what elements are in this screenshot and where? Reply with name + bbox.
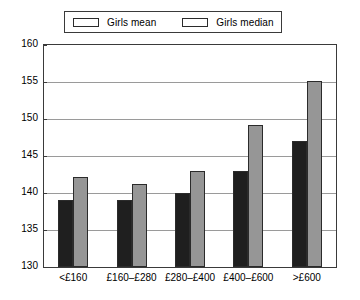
bar-mean xyxy=(292,141,307,267)
legend-swatch-girls-mean xyxy=(73,18,99,27)
bar-mean xyxy=(233,171,248,267)
bars-layer xyxy=(44,45,336,267)
y-tick-mark xyxy=(43,82,47,83)
legend-item-girls-mean: Girls mean xyxy=(73,12,156,32)
bar-group xyxy=(219,45,277,267)
bar-chart: Girls mean Girls median 1301351401451501… xyxy=(0,0,360,300)
y-tick-mark xyxy=(43,230,47,231)
y-axis: 130135140145150155160 xyxy=(0,44,38,268)
bar-median xyxy=(190,171,205,267)
bar-group xyxy=(44,45,102,267)
legend-item-girls-median: Girls median xyxy=(182,12,273,32)
y-tick-mark xyxy=(43,193,47,194)
bar-mean xyxy=(58,200,73,267)
y-tick-label: 160 xyxy=(4,39,38,49)
chart-legend: Girls mean Girls median xyxy=(64,11,282,33)
bar-mean xyxy=(175,193,190,267)
y-tick-mark xyxy=(43,119,47,120)
y-tick-label: 155 xyxy=(4,76,38,86)
y-tick-label: 150 xyxy=(4,113,38,123)
bar-group xyxy=(161,45,219,267)
y-tick-label: 140 xyxy=(4,187,38,197)
y-tick-label: 145 xyxy=(4,150,38,160)
x-tick-label: >£600 xyxy=(278,272,336,284)
x-tick-label: £280–£400 xyxy=(161,272,219,284)
x-axis: <£160£160–£280£280–£400£400–£600>£600 xyxy=(44,272,336,288)
bar-mean xyxy=(117,200,132,267)
legend-label-girls-median: Girls median xyxy=(216,17,273,28)
bar-median xyxy=(132,184,147,267)
y-tick-mark xyxy=(43,45,47,46)
x-tick-label: £160–£280 xyxy=(102,272,160,284)
x-tick-label: £400–£600 xyxy=(219,272,277,284)
bar-median xyxy=(307,81,322,267)
bar-median xyxy=(73,177,88,267)
legend-label-girls-mean: Girls mean xyxy=(107,17,156,28)
x-tick-label: <£160 xyxy=(44,272,102,284)
y-tick-label: 135 xyxy=(4,224,38,234)
bar-group xyxy=(102,45,160,267)
bar-median xyxy=(248,125,263,267)
y-tick-mark xyxy=(43,267,47,268)
y-tick-label: 130 xyxy=(4,261,38,271)
bar-group xyxy=(278,45,336,267)
legend-swatch-girls-median xyxy=(182,18,208,27)
y-tick-mark xyxy=(43,156,47,157)
